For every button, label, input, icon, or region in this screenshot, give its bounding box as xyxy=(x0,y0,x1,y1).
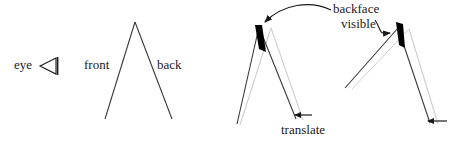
translated-silhouette-right xyxy=(345,22,438,124)
translated-front-edge-right xyxy=(345,28,398,88)
ghost-back-edge-right xyxy=(409,29,438,124)
front-label: front xyxy=(84,58,109,73)
translated-back-edge xyxy=(259,27,296,119)
eye-label: eye xyxy=(14,58,32,73)
callout-arrow-right xyxy=(385,22,392,34)
translate-label: translate xyxy=(281,123,325,138)
eye-frustum-icon xyxy=(40,57,58,75)
backface-visibility-figure: eye front back backface visible translat… xyxy=(0,0,464,145)
translated-silhouette-left xyxy=(237,25,303,125)
figure-vector-layer xyxy=(0,0,464,145)
backface-label: backface xyxy=(333,2,379,17)
backface-sliver-right xyxy=(396,22,405,48)
callout-arrow-right-curve xyxy=(375,20,390,33)
visible-label: visible xyxy=(341,17,376,32)
ghost-back-edge xyxy=(271,28,303,120)
callout-arrow-left xyxy=(265,5,331,22)
front-face-edge xyxy=(105,22,135,119)
back-label: back xyxy=(157,58,182,73)
